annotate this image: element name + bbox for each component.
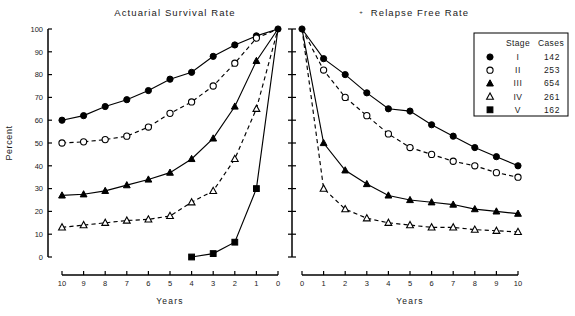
legend-stage-label: I bbox=[517, 52, 520, 62]
series-line bbox=[62, 29, 278, 227]
data-point-open-triangle bbox=[188, 199, 195, 205]
right-x-tick-label: 5 bbox=[408, 279, 412, 288]
left-y-tick-label: 100 bbox=[30, 25, 43, 34]
legend-cases-value: 253 bbox=[544, 65, 560, 75]
data-point-filled-square bbox=[210, 251, 216, 257]
data-point-filled-square bbox=[487, 107, 493, 113]
left-x-tick-label: 10 bbox=[58, 279, 66, 288]
right-x-tick-label: 3 bbox=[365, 279, 369, 288]
data-point-open-circle bbox=[167, 110, 173, 116]
figure-root: Actuarial Survival RateRelapse Free Rate… bbox=[0, 0, 575, 316]
left-x-tick-label: 8 bbox=[103, 279, 107, 288]
data-point-open-circle bbox=[81, 139, 87, 145]
data-point-filled-circle bbox=[124, 97, 130, 103]
data-point-filled-circle bbox=[429, 122, 435, 128]
data-point-open-triangle bbox=[363, 215, 370, 221]
left-y-tick-label: 20 bbox=[35, 207, 43, 216]
data-point-filled-circle bbox=[59, 117, 65, 123]
left-panel-title: Actuarial Survival Rate bbox=[114, 7, 235, 18]
left-x-axis-label: Years bbox=[156, 296, 183, 306]
legend-cases-value: 142 bbox=[544, 52, 560, 62]
data-point-filled-circle bbox=[385, 106, 391, 112]
data-point-open-triangle bbox=[231, 155, 238, 161]
right-x-tick-label: 10 bbox=[514, 279, 522, 288]
data-point-open-triangle bbox=[253, 105, 260, 111]
data-point-filled-circle bbox=[450, 133, 456, 139]
data-point-filled-circle bbox=[102, 103, 108, 109]
right-x-tick-label: 1 bbox=[322, 279, 326, 288]
data-point-filled-triangle bbox=[363, 180, 370, 186]
left-y-tick-label: 80 bbox=[35, 70, 43, 79]
left-x-tick-label: 3 bbox=[211, 279, 215, 288]
left-series-stage-ii bbox=[59, 29, 278, 146]
left-x-tick-label: 5 bbox=[168, 279, 172, 288]
series-line bbox=[62, 29, 278, 143]
survival-chart-svg: Actuarial Survival RateRelapse Free Rate… bbox=[0, 0, 575, 316]
right-panel-title: Relapse Free Rate bbox=[371, 7, 469, 18]
data-point-open-circle bbox=[189, 99, 195, 105]
left-y-tick-label: 0 bbox=[39, 253, 43, 262]
data-point-filled-circle bbox=[407, 108, 413, 114]
legend-cases-value: 654 bbox=[544, 78, 560, 88]
left-x-tick-label: 6 bbox=[146, 279, 150, 288]
data-point-filled-circle bbox=[472, 144, 478, 150]
left-series-stage-i bbox=[59, 26, 281, 123]
right-x-axis-label: Years bbox=[396, 296, 423, 306]
data-point-open-triangle bbox=[167, 212, 174, 218]
data-point-filled-triangle bbox=[385, 192, 392, 198]
legend-stage-label: II bbox=[515, 65, 521, 75]
data-point-filled-circle bbox=[321, 56, 327, 62]
data-point-filled-circle bbox=[81, 113, 87, 119]
legend-header-cases: Cases bbox=[538, 38, 564, 48]
data-point-filled-circle bbox=[493, 154, 499, 160]
data-point-filled-circle bbox=[167, 76, 173, 82]
data-point-filled-triangle bbox=[231, 103, 238, 109]
data-point-filled-square bbox=[232, 239, 238, 245]
left-x-tick-label: 0 bbox=[276, 279, 280, 288]
left-y-tick-label: 90 bbox=[35, 48, 43, 57]
data-point-open-circle bbox=[487, 67, 493, 73]
data-point-open-triangle bbox=[385, 219, 392, 225]
legend-stage-label: III bbox=[514, 78, 523, 88]
right-x-tick-label: 7 bbox=[451, 279, 455, 288]
right-x-tick-label: 0 bbox=[300, 279, 304, 288]
right-x-tick-label: 4 bbox=[386, 279, 390, 288]
relapse-title-marker: + bbox=[359, 9, 363, 15]
data-point-open-circle bbox=[253, 35, 259, 41]
left-x-tick-label: 1 bbox=[254, 279, 258, 288]
right-x-tick-label: 6 bbox=[430, 279, 434, 288]
left-x-tick-label: 2 bbox=[233, 279, 237, 288]
data-point-filled-triangle bbox=[167, 169, 174, 175]
left-y-tick-label: 60 bbox=[35, 116, 43, 125]
right-x-tick-label: 8 bbox=[473, 279, 477, 288]
data-point-open-circle bbox=[364, 113, 370, 119]
data-point-open-circle bbox=[210, 83, 216, 89]
data-point-filled-circle bbox=[342, 72, 348, 78]
data-point-open-circle bbox=[472, 163, 478, 169]
left-y-tick-label: 70 bbox=[35, 93, 43, 102]
data-point-open-circle bbox=[342, 94, 348, 100]
left-x-tick-label: 4 bbox=[190, 279, 194, 288]
right-x-tick-label: 9 bbox=[494, 279, 498, 288]
left-y-tick-label: 50 bbox=[35, 139, 43, 148]
data-point-open-circle bbox=[321, 67, 327, 73]
legend-cases-value: 162 bbox=[544, 105, 560, 115]
legend-header-stage: Stage bbox=[506, 38, 530, 48]
left-y-tick-label: 40 bbox=[35, 162, 43, 171]
data-point-open-circle bbox=[515, 174, 521, 180]
data-point-open-triangle bbox=[320, 185, 327, 191]
left-x-tick-label: 9 bbox=[82, 279, 86, 288]
data-point-filled-circle bbox=[487, 54, 493, 60]
legend-cases-value: 261 bbox=[544, 92, 560, 102]
data-point-open-circle bbox=[429, 151, 435, 157]
left-y-tick-label: 10 bbox=[35, 230, 43, 239]
y-axis-label: Percent bbox=[4, 125, 14, 160]
left-x-tick-label: 7 bbox=[125, 279, 129, 288]
legend-stage-label: IV bbox=[513, 92, 522, 102]
left-series-stage-iv bbox=[59, 29, 278, 230]
data-point-open-circle bbox=[232, 60, 238, 66]
left-y-tick-label: 30 bbox=[35, 184, 43, 193]
data-point-open-circle bbox=[407, 144, 413, 150]
legend-stage-label: V bbox=[515, 105, 521, 115]
data-point-open-circle bbox=[124, 133, 130, 139]
